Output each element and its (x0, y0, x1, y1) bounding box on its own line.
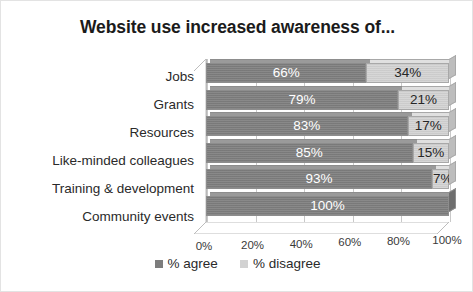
legend-item-agree: % agree (155, 256, 218, 271)
bar-segment-disagree[interactable]: 7% (432, 169, 449, 189)
legend-swatch-icon (240, 260, 248, 268)
category-label: Training & development (9, 175, 194, 203)
bar-segment-disagree[interactable]: 21% (398, 90, 449, 110)
bar-segment-disagree[interactable]: 15% (413, 143, 449, 163)
bar-row: 93%7% (206, 169, 449, 189)
legend-label: % agree (168, 256, 218, 271)
bar-end-cap (449, 82, 456, 106)
bar-end-cap (449, 161, 456, 185)
x-axis-tick-label: 20% (241, 239, 264, 251)
bar-end-cap (449, 108, 456, 132)
chart-container: Website use increased awareness of... Jo… (0, 0, 473, 292)
bar-row: 100% (206, 196, 449, 216)
legend-swatch-icon (155, 260, 163, 268)
bar-segment-agree[interactable]: 83% (206, 116, 408, 136)
category-axis-labels: Jobs Grants Resources Like-minded collea… (9, 63, 194, 231)
legend-label: % disagree (253, 256, 321, 271)
bar-end-cap (449, 55, 456, 79)
x-axis: 0%20%40%60%80%100% (194, 234, 459, 252)
category-label: Resources (9, 119, 194, 147)
bar-row: 83%17% (206, 116, 449, 136)
bar-segment-agree[interactable]: 85% (206, 143, 413, 163)
bar-segment-disagree[interactable]: 34% (366, 63, 449, 83)
bar-end-cap (449, 135, 456, 159)
chart-legend: % agree % disagree (1, 256, 473, 271)
bar-segment-agree[interactable]: 100% (206, 196, 449, 216)
x-axis-tick-label: 80% (387, 235, 410, 247)
legend-item-disagree: % disagree (240, 256, 321, 271)
bar-segment-agree[interactable]: 79% (206, 90, 398, 110)
bar-segment-agree[interactable]: 66% (206, 63, 366, 83)
x-axis-tick-label: 60% (338, 236, 361, 248)
category-label: Like-minded colleagues (9, 147, 194, 175)
x-axis-tick-label: 40% (290, 238, 313, 250)
x-axis-tick-label: 100% (432, 234, 461, 246)
bar-segment-agree[interactable]: 93% (206, 169, 432, 189)
bars-group: 66%34%79%21%83%17%85%15%93%7%100% (206, 63, 449, 223)
category-label: Community events (9, 203, 194, 231)
chart-title: Website use increased awareness of... (1, 17, 473, 38)
category-label: Grants (9, 91, 194, 119)
category-label: Jobs (9, 63, 194, 91)
bar-row: 79%21% (206, 90, 449, 110)
bar-segment-disagree[interactable]: 17% (408, 116, 449, 136)
x-axis-tick-label: 0% (196, 240, 213, 252)
bar-row: 66%34% (206, 63, 449, 83)
bar-end-cap (449, 188, 456, 212)
bar-row: 85%15% (206, 143, 449, 163)
plot-area: 66%34%79%21%83%17%85%15%93%7%100% (194, 59, 449, 234)
